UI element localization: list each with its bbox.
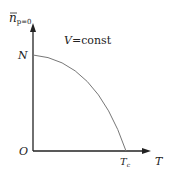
y-axis-label: np=0 <box>9 11 32 26</box>
x-intercept-label: Tc <box>120 156 131 168</box>
x-axis-arrow-icon <box>142 148 151 154</box>
x-axis-label: T <box>155 155 164 168</box>
curve <box>33 55 126 151</box>
diagram: np=0 N O Tc T V=const <box>0 0 173 173</box>
origin-label: O <box>19 145 28 158</box>
annotation: V=const <box>64 34 112 47</box>
y-intercept-label: N <box>17 49 28 62</box>
